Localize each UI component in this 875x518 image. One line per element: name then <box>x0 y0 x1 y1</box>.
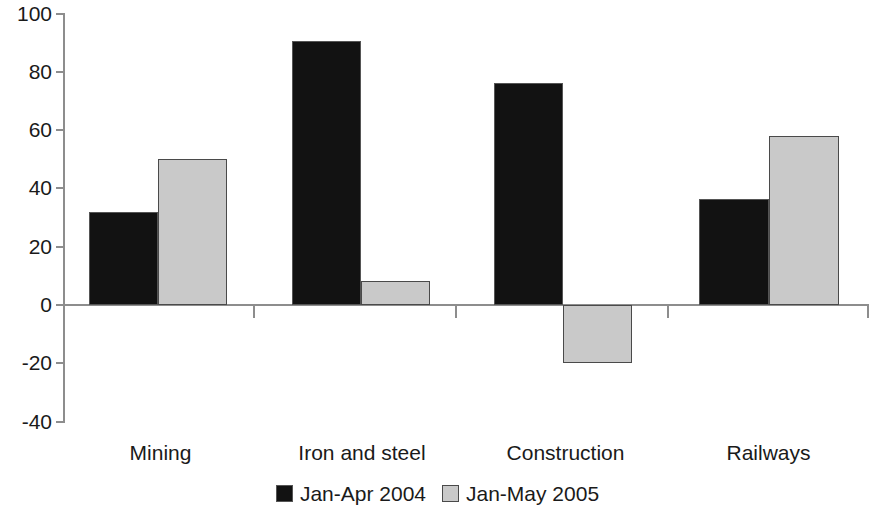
chart-legend: Jan-Apr 2004 Jan-May 2005 <box>0 483 875 504</box>
x-tick-mark <box>455 306 457 318</box>
y-axis-label-20: 20 <box>0 236 52 257</box>
y-tick-label: 60 <box>0 119 52 140</box>
y-tick-mark <box>56 246 65 248</box>
y-axis-label-40: 40 <box>0 177 52 198</box>
y-tick-label: 20 <box>0 236 52 257</box>
y-axis-label-100: 100 <box>0 3 52 24</box>
gray-square-swatch-icon <box>442 485 459 502</box>
bar-construction-jan-may-2005 <box>563 305 632 363</box>
x-tick-mark <box>667 306 669 318</box>
legend-item-jan-may-2005: Jan-May 2005 <box>442 483 599 504</box>
black-square-swatch-icon <box>276 485 293 502</box>
bar-iron-and-steel-jan-may-2005 <box>361 281 430 305</box>
y-tick-label: 0 <box>0 294 52 315</box>
bar-railways-jan-may-2005 <box>769 136 839 305</box>
bar-mining-jan-apr-2004 <box>89 212 158 305</box>
y-tick-label: -40 <box>0 411 52 432</box>
y-tick-label: 100 <box>0 3 52 24</box>
x-tick-mark <box>867 306 869 318</box>
y-tick-mark <box>56 129 65 131</box>
y-axis-label-0: 0 <box>0 294 52 315</box>
legend-label: Jan-May 2005 <box>466 483 599 504</box>
y-axis-label-minus20: -20 <box>0 352 52 373</box>
y-axis-label-80: 80 <box>0 61 52 82</box>
bar-iron-and-steel-jan-apr-2004 <box>292 41 361 305</box>
x-axis-label-construction: Construction <box>478 441 653 465</box>
legend-item-jan-apr-2004: Jan-Apr 2004 <box>276 483 426 504</box>
plot-area: 100 80 60 40 20 0 -20 -40 <box>0 0 875 440</box>
y-tick-mark <box>56 421 65 423</box>
y-tick-mark <box>56 187 65 189</box>
legend-label: Jan-Apr 2004 <box>300 483 426 504</box>
y-tick-mark <box>56 13 65 15</box>
x-axis-label-mining: Mining <box>78 441 243 465</box>
bar-construction-jan-apr-2004 <box>494 83 563 305</box>
bar-mining-jan-may-2005 <box>158 159 227 305</box>
y-tick-label: 40 <box>0 177 52 198</box>
y-tick-label: 80 <box>0 61 52 82</box>
y-axis-label-60: 60 <box>0 119 52 140</box>
x-axis-label-iron-and-steel: Iron and steel <box>272 441 452 465</box>
x-tick-mark <box>253 306 255 318</box>
bar-chart: 100 80 60 40 20 0 -20 -40 <box>0 0 875 518</box>
y-tick-mark <box>56 304 65 306</box>
bar-railways-jan-apr-2004 <box>699 199 769 305</box>
x-axis-label-railways: Railways <box>686 441 851 465</box>
y-tick-mark <box>56 362 65 364</box>
y-axis-label-minus40: -40 <box>0 411 52 432</box>
y-tick-mark <box>56 71 65 73</box>
y-tick-label: -20 <box>0 352 52 373</box>
